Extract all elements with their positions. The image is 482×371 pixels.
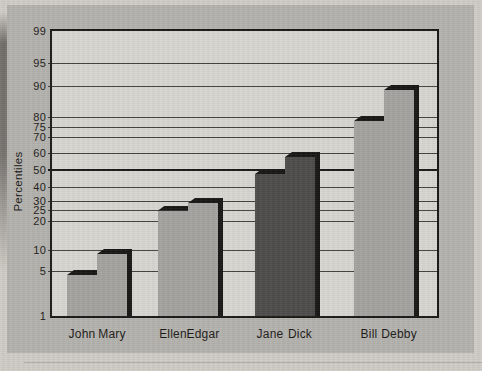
page-margin-bottom <box>0 353 482 371</box>
page-gutter-shadow <box>0 12 7 272</box>
x-label-edgar: Edgar <box>173 327 233 342</box>
bar-face <box>97 254 127 316</box>
x-label-debby: Debby <box>369 327 429 342</box>
y-tick-label-10: 10 <box>10 244 46 257</box>
bar-side-shadow <box>218 198 223 316</box>
bar-side-shadow <box>127 249 132 316</box>
bar-edgar <box>188 198 223 316</box>
y-tick-label-5: 5 <box>10 265 46 278</box>
bar-debby <box>384 85 419 316</box>
x-label-mary: Mary <box>82 327 142 342</box>
scan-artifact-line <box>24 362 482 363</box>
y-tick-label-90: 90 <box>10 80 46 93</box>
gridline-90 <box>48 86 437 87</box>
bar-face <box>158 211 188 317</box>
y-tick-label-1: 1 <box>10 310 46 323</box>
scanned-figure-page: 9995908075706050403025201051 Percentiles… <box>0 0 482 371</box>
y-tick-label-99: 99 <box>10 25 46 38</box>
bar-face <box>384 90 414 316</box>
y-axis-title: Percentiles <box>12 122 27 242</box>
bar-face <box>188 203 218 316</box>
bar-face <box>255 174 285 316</box>
bar-face <box>67 275 97 316</box>
bar-side-shadow <box>315 152 320 316</box>
x-label-dick: Dick <box>270 327 330 342</box>
y-tick-label-95: 95 <box>10 57 46 70</box>
bar-side-shadow <box>414 85 419 316</box>
bar-face <box>354 121 384 316</box>
bar-dick <box>285 152 320 316</box>
bar-face <box>285 157 315 316</box>
bar-mary <box>97 249 132 316</box>
gridline-95 <box>48 63 437 64</box>
